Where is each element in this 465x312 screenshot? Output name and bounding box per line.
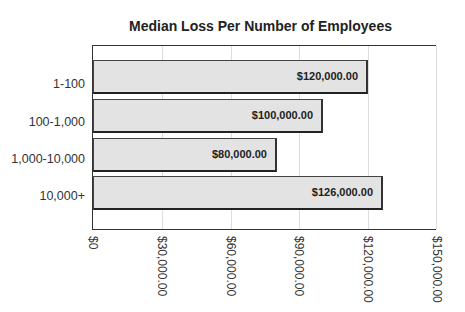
bar-1000-10000: $80,000.00 (93, 138, 277, 172)
gridline (436, 46, 437, 229)
bar-10000-plus: $126,000.00 (93, 176, 383, 210)
x-tick-label: $60,000.00 (224, 236, 238, 296)
category-label: 10,000+ (39, 189, 85, 203)
x-tick-label: $30,000.00 (155, 236, 169, 296)
x-tick-label: $150,000.00 (430, 236, 444, 303)
bar-value-label: $100,000.00 (252, 109, 313, 121)
bar-value-label: $126,000.00 (312, 186, 373, 198)
bar-value-label: $120,000.00 (297, 70, 358, 82)
bar-value-label: $80,000.00 (212, 148, 267, 160)
plot-area: $120,000.00 $100,000.00 $80,000.00 $126,… (92, 45, 436, 230)
category-label: 100-1,000 (29, 115, 85, 129)
bar-1-100: $120,000.00 (93, 60, 368, 94)
x-tick-label: $0 (86, 236, 100, 249)
x-tick-label: $90,000.00 (292, 236, 306, 296)
chart-title: Median Loss Per Number of Employees (0, 18, 465, 34)
category-label: 1-100 (53, 77, 85, 91)
bar-100-1000: $100,000.00 (93, 99, 323, 133)
category-label: 1,000-10,000 (11, 152, 85, 166)
x-tick-label: $120,000.00 (361, 236, 375, 303)
